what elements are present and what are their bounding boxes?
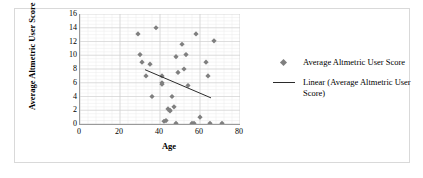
x-axis-tick-label: 0 — [64, 128, 94, 136]
y-axis-tick-label: 2 — [51, 106, 77, 114]
trend-line — [80, 14, 240, 124]
legend-label: Linear (Average Altmetric User Score) — [303, 77, 411, 98]
plot-inner — [80, 14, 240, 124]
x-axis-tick-label: 40 — [144, 128, 174, 136]
x-axis-title: Age — [79, 141, 259, 151]
y-axis-tick-label: 12 — [51, 38, 77, 46]
legend-diamond-icon — [280, 58, 287, 65]
y-axis-title: Average Altmetric User Score — [27, 1, 38, 111]
legend-entry[interactable]: Linear (Average Altmetric User Score) — [271, 77, 416, 99]
y-axis-tick-label: 14 — [51, 24, 77, 32]
x-axis-tick-label: 80 — [224, 128, 254, 136]
y-axis-tick-label: 8 — [51, 65, 77, 73]
y-axis-tick-label: 6 — [51, 79, 77, 87]
plot-area — [79, 14, 240, 125]
chart-frame: Average Altmetric User Score 02468101214… — [14, 8, 410, 163]
legend-label: Average Altmetric User Score — [303, 57, 405, 67]
y-axis-tick-label: 16 — [51, 10, 77, 18]
legend-entry[interactable]: Average Altmetric User Score — [271, 57, 416, 68]
y-axis-tick-label: 0 — [51, 120, 77, 128]
chart-legend: Average Altmetric User ScoreLinear (Aver… — [271, 57, 416, 108]
x-axis-tick-label: 20 — [104, 128, 134, 136]
y-axis-tick-labels: 0246810121416 — [47, 14, 77, 124]
y-axis-tick-label: 10 — [51, 51, 77, 59]
x-axis-tick-label: 60 — [184, 128, 214, 136]
chart-figure: Average Altmetric User Score 02468101214… — [0, 0, 423, 178]
legend-line-icon — [273, 82, 295, 83]
y-axis-tick-label: 4 — [51, 93, 77, 101]
x-axis-tick-labels: 020406080 — [79, 128, 259, 140]
